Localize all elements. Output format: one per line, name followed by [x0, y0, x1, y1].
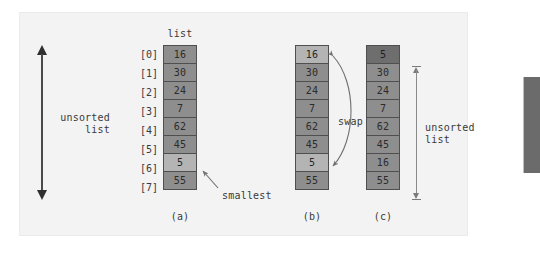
array-cell: 24	[295, 81, 329, 100]
index-label-4: [4]	[132, 121, 158, 140]
array-column-b: 16 30 24 7 62 45 5 55	[295, 45, 329, 190]
array-cell: 7	[366, 99, 400, 118]
panel-caption-c: (c)	[362, 211, 404, 222]
array-cell-highlighted: 5	[163, 153, 197, 172]
array-cell: 30	[163, 63, 197, 82]
array-cell: 55	[163, 171, 197, 190]
array-cell: 55	[366, 171, 400, 190]
array-column-c: 5 30 24 7 62 45 16 55	[366, 45, 400, 190]
array-cell: 55	[295, 171, 329, 190]
unsorted-list-label-a-line1: unsorted	[20, 112, 110, 123]
array-cell: 45	[366, 135, 400, 154]
array-cell: 16	[366, 153, 400, 172]
array-cell: 45	[295, 135, 329, 154]
unsorted-list-label-c-line2: list	[425, 134, 450, 145]
index-label-0: [0]	[132, 45, 158, 64]
arrow-shaft	[416, 70, 417, 196]
right-edge-bar	[523, 77, 540, 173]
smallest-label: smallest	[222, 190, 272, 201]
array-cell: 7	[163, 99, 197, 118]
arrow-head-down-icon	[37, 190, 47, 200]
index-label-1: [1]	[132, 64, 158, 83]
array-cell-sorted: 5	[366, 45, 400, 64]
array-cell: 30	[295, 63, 329, 82]
unsorted-range-arrow-c	[412, 66, 421, 200]
array-cell: 62	[163, 117, 197, 136]
swap-label: swap	[338, 116, 363, 127]
array-cell: 45	[163, 135, 197, 154]
array-cell-highlighted: 16	[295, 45, 329, 64]
unsorted-list-label-a-line2: list	[20, 124, 110, 135]
list-header-label: list	[159, 28, 201, 39]
panel-caption-a: (a)	[159, 211, 201, 222]
array-cell: 62	[366, 117, 400, 136]
panel-caption-b: (b)	[291, 211, 333, 222]
index-label-7: [7]	[132, 178, 158, 197]
arrow-cap-bottom	[412, 199, 421, 200]
index-label-5: [5]	[132, 140, 158, 159]
array-cell: 16	[163, 45, 197, 64]
index-label-6: [6]	[132, 159, 158, 178]
array-cell: 24	[366, 81, 400, 100]
index-label-2: [2]	[132, 83, 158, 102]
array-cell: 62	[295, 117, 329, 136]
array-cell: 24	[163, 81, 197, 100]
array-cell: 7	[295, 99, 329, 118]
array-column-a: 16 30 24 7 62 45 5 55	[163, 45, 197, 190]
array-cell: 30	[366, 63, 400, 82]
array-cell-highlighted: 5	[295, 153, 329, 172]
index-label-3: [3]	[132, 102, 158, 121]
unsorted-list-label-c-line1: unsorted	[425, 122, 475, 133]
